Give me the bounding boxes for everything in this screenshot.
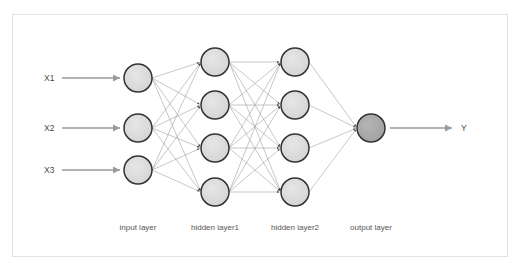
layer-labels-group: input layerhidden layer1hidden layer2out…: [120, 223, 393, 232]
neural-network-figure: X1X2X3Y input layerhidden layer1hidden l…: [0, 0, 520, 271]
connection-line: [152, 149, 200, 170]
input-label-2: X2: [44, 123, 55, 133]
connection-line: [229, 63, 280, 148]
connection-line: [229, 63, 280, 192]
input-label-1: X1: [44, 73, 55, 83]
layer-label-input-layer: input layer: [120, 223, 157, 232]
neuron-node-input-layer-2: [124, 114, 152, 142]
neuron-node-hidden-layer1-2: [201, 91, 229, 119]
output-label-1: Y: [461, 123, 467, 133]
neuron-node-hidden-layer2-4: [281, 178, 309, 206]
connection-line: [309, 129, 356, 192]
connection-line: [152, 78, 200, 147]
connection-line: [152, 62, 200, 78]
input-label-3: X3: [44, 165, 55, 175]
connection-line: [152, 106, 200, 170]
neuron-node-hidden-layer2-2: [281, 91, 309, 119]
layer-label-hidden-layer1: hidden layer1: [191, 223, 240, 232]
neuron-node-input-layer-3: [124, 156, 152, 184]
neuron-node-hidden-layer1-4: [201, 178, 229, 206]
connection-line: [152, 78, 200, 191]
neuron-node-input-layer-1: [124, 64, 152, 92]
neuron-node-hidden-layer1-1: [201, 48, 229, 76]
connection-line: [309, 62, 356, 127]
connection-line: [152, 106, 200, 128]
neuron-node-hidden-layer2-1: [281, 48, 309, 76]
neuron-node-output-layer-1: [357, 114, 385, 142]
io-labels-group: X1X2X3Y: [44, 73, 467, 175]
connection-line: [229, 106, 280, 148]
connection-line: [229, 62, 280, 104]
io-arrows-group: [62, 78, 452, 170]
connection-line: [229, 106, 280, 192]
connection-line: [309, 129, 356, 148]
connection-line: [152, 63, 200, 170]
neuron-node-hidden-layer1-3: [201, 134, 229, 162]
network-canvas: X1X2X3Y input layerhidden layer1hidden l…: [0, 0, 520, 271]
connection-line: [152, 78, 200, 104]
neuron-node-hidden-layer2-3: [281, 134, 309, 162]
connection-line: [152, 63, 200, 128]
connection-line: [229, 62, 280, 147]
layer-label-hidden-layer2: hidden layer2: [271, 223, 320, 232]
connection-line: [229, 105, 280, 147]
connections-group: [152, 62, 356, 192]
layer-label-output-layer: output layer: [350, 223, 392, 232]
